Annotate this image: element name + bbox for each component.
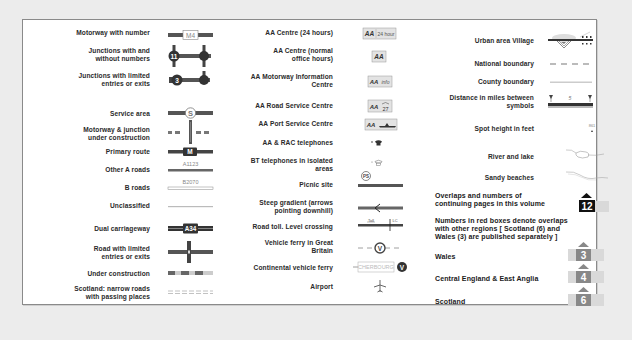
- legend-item-picnic-site: Picnic site: [213, 181, 333, 189]
- svg-text:B2070: B2070: [183, 179, 199, 185]
- aa-port-service-symbol: AA: [365, 119, 397, 130]
- river-lake-symbol: [566, 147, 608, 163]
- legend-item-spot-height: Spot height in feet: [423, 125, 534, 133]
- legend-item-aa-port-service: AA Port Service Centre: [213, 120, 333, 128]
- legend-item-river-lake: River and lake: [423, 153, 534, 161]
- svg-text:Toll: Toll: [368, 218, 374, 223]
- unclassified-symbol: [168, 205, 213, 209]
- legend-item-limited-road: Road with limited entries or exits: [23, 245, 150, 260]
- svg-text:5: 5: [569, 95, 572, 101]
- legend-item-unclassified: Unclassified: [23, 202, 150, 210]
- legend-item-aa-info: AA Motorway Information Centre: [203, 73, 333, 88]
- region-wales: Wales: [435, 253, 455, 261]
- svg-text:861: 861: [589, 123, 596, 128]
- svg-text:A34: A34: [185, 225, 197, 232]
- svg-text:M: M: [187, 148, 192, 155]
- legend-item-b-road: B roads: [23, 184, 150, 192]
- overlap-page-box: 12: [579, 192, 609, 214]
- svg-text:AA: AA: [373, 53, 384, 60]
- legend-item-junctions: Junctions with and without numbers: [23, 47, 150, 62]
- legend-item-continental-ferry: Continental vehicle ferry: [203, 264, 333, 272]
- legend-item-under-construction: Under construction: [23, 270, 150, 278]
- bt-telephone-icon: [371, 159, 385, 167]
- legend-item-aa-road-service: AA Road Service Centre: [213, 102, 333, 110]
- toll-crossing-symbol: Toll LC: [358, 217, 403, 233]
- motorway-symbol: M4: [168, 30, 213, 40]
- region-scotland: Scotland: [435, 298, 465, 306]
- svg-text:27: 27: [382, 106, 388, 112]
- region-central-england: Central England & East Anglia: [435, 275, 538, 283]
- motorway-construction-symbol: [168, 119, 213, 145]
- spot-height-symbol: 861: [585, 122, 599, 136]
- aa-info-symbol: AA info: [368, 76, 392, 87]
- aa-office-symbol: AA: [372, 51, 386, 62]
- svg-text:AA: AA: [366, 122, 376, 128]
- svg-text:V: V: [400, 264, 405, 271]
- svg-text:24 hour: 24 hour: [378, 31, 395, 37]
- sandy-beaches-symbol: [566, 170, 611, 184]
- svg-text:S: S: [188, 109, 193, 118]
- urban-village-symbol: [548, 32, 593, 52]
- svg-text:12: 12: [581, 201, 593, 212]
- aa-24-hour-symbol: AA 24 hour: [363, 28, 396, 39]
- continental-ferry-symbol: CHERBOURG V: [353, 261, 413, 273]
- dual-carriageway-symbol: A34: [168, 223, 213, 234]
- road-number: M4: [186, 32, 195, 39]
- legend-item-airport: Airport: [213, 283, 333, 291]
- primary-route-symbol: M: [168, 147, 213, 157]
- legend-label: Motorway with number: [76, 29, 150, 37]
- legend-item-aa-24: AA Centre (24 hours): [213, 29, 333, 37]
- svg-text:V: V: [378, 245, 383, 252]
- narrow-roads-symbol: [168, 290, 213, 295]
- picnic-site-symbol: PS: [358, 170, 403, 190]
- legend-item-motorway: Motorway with number: [23, 29, 150, 37]
- legend-item-motorway-construction: Motorway & junction under construction: [23, 126, 150, 141]
- region-box-central-england: 4: [568, 263, 604, 285]
- aa-road-service-symbol: AA 27: [368, 100, 392, 112]
- region-box-wales: 3: [568, 241, 604, 263]
- legend-item-a-road: Other A roads: [23, 166, 150, 174]
- b-road-symbol: B2070: [168, 178, 213, 192]
- legend-item-dual-carriageway: Dual carriageway: [23, 225, 150, 233]
- legend-label-line2: without numbers: [88, 55, 150, 63]
- svg-text:LC: LC: [392, 218, 397, 223]
- legend-item-bt-phone: BT telephones in isolated areas: [203, 157, 333, 172]
- svg-text:4: 4: [581, 272, 587, 283]
- limited-road-symbol: [168, 241, 213, 263]
- legend-item-service-area: Service area: [23, 110, 150, 118]
- map-legend-panel: Motorway with number M4 Junctions with a…: [22, 19, 597, 305]
- national-boundary-symbol: [550, 62, 592, 66]
- svg-text:CHERBOURG: CHERBOURG: [358, 264, 394, 270]
- legend-item-aa-office: AA Centre (normal office hours): [213, 47, 333, 62]
- svg-text:AA: AA: [369, 104, 379, 110]
- service-area-symbol: S: [168, 107, 213, 119]
- svg-text:AA: AA: [364, 30, 375, 37]
- svg-text:AA: AA: [369, 79, 379, 85]
- legend-item-urban-village: Urban area Village: [423, 37, 534, 45]
- svg-text:PS: PS: [363, 174, 369, 179]
- junctions-symbol: 11: [168, 45, 213, 67]
- legend-item-toll-crossing: Road toll. Level crossing: [213, 223, 333, 231]
- legend-item-limited-junctions: Junctions with limited entries or exits: [23, 72, 150, 87]
- steep-gradient-symbol: [358, 203, 403, 213]
- legend-item-vehicle-ferry: Vehicle ferry in Great Britain: [213, 239, 333, 254]
- svg-text:11: 11: [171, 53, 178, 60]
- svg-text:6: 6: [581, 295, 587, 306]
- legend-item-sandy-beaches: Sandy beaches: [423, 174, 534, 182]
- svg-text:3: 3: [581, 250, 587, 261]
- legend-item-national-boundary: National boundary: [423, 60, 534, 68]
- airplane-icon: [373, 279, 387, 293]
- red-boxes-note: Numbers in red boxes denote overlaps wit…: [435, 217, 568, 241]
- legend-item-narrow-roads: Scotland: narrow roads with passing plac…: [23, 285, 150, 300]
- region-box-scotland: 6: [568, 286, 604, 308]
- legend-item-aa-rac-phone: AA & RAC telephones: [213, 139, 333, 147]
- county-boundary-symbol: [550, 81, 592, 84]
- legend-item-steep-gradient: Steep gradient (arrows pointing downhill…: [213, 199, 333, 214]
- svg-text:3: 3: [175, 77, 179, 84]
- vehicle-ferry-symbol: V: [358, 242, 403, 254]
- legend-item-primary-route: Primary route: [23, 148, 150, 156]
- distance-symbol: 5: [548, 94, 593, 110]
- legend-label-line1: Junctions with and: [88, 47, 150, 55]
- overlaps-note: Overlaps and numbers of continuing pages…: [435, 192, 545, 208]
- svg-text:A1123: A1123: [183, 161, 199, 167]
